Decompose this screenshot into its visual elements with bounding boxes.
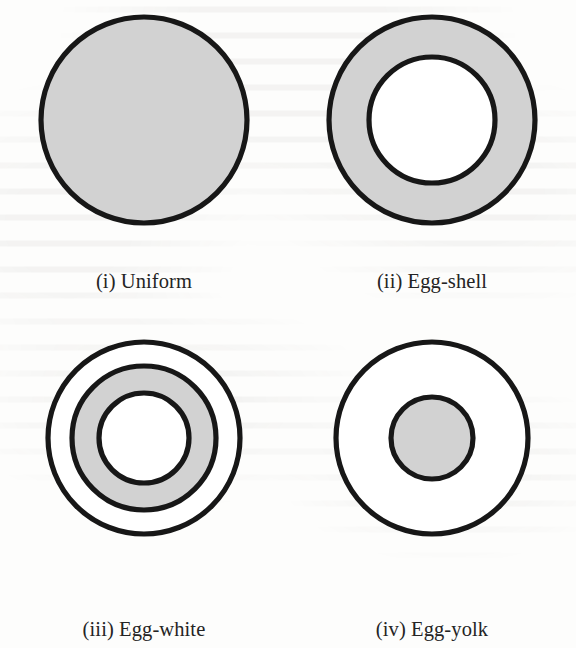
inner-boundary-circle [369, 57, 495, 183]
panel-egg-yolk: (iv) Egg-yolk [288, 324, 576, 648]
diagram-egg-white-holder [0, 324, 288, 582]
outer-boundary-circle [41, 17, 247, 223]
inner-boundary-circle [99, 393, 189, 483]
egg-white-distribution-diagram [29, 324, 259, 560]
panel-uniform: (i) Uniform [0, 0, 288, 324]
caption-egg-yolk: (iv) Egg-yolk [376, 618, 488, 641]
diagram-egg-shell-holder [288, 0, 576, 262]
uniform-distribution-diagram [24, 0, 264, 250]
panel-egg-shell: (ii) Egg-shell [288, 0, 576, 324]
panel-egg-white: (iii) Egg-white [0, 324, 288, 648]
figure-sheet: (i) Uniform (ii) Egg-shell (iii) Egg- [0, 0, 576, 648]
caption-egg-white: (iii) Egg-white [83, 618, 206, 641]
diagram-egg-yolk-holder [288, 324, 576, 582]
egg-shell-distribution-diagram [312, 0, 552, 250]
core-boundary-circle [391, 397, 473, 479]
diagram-uniform-holder [0, 0, 288, 262]
caption-egg-shell: (ii) Egg-shell [377, 270, 487, 293]
caption-uniform: (i) Uniform [96, 270, 192, 293]
egg-yolk-distribution-diagram [317, 324, 547, 560]
catalyst-distribution-figure: (i) Uniform (ii) Egg-shell (iii) Egg- [0, 0, 576, 648]
